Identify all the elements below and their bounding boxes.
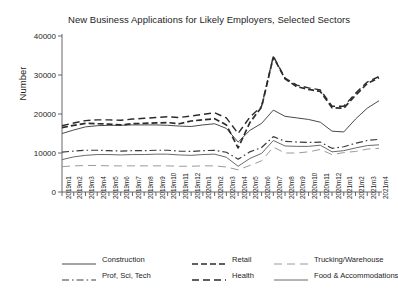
chart-legend: ConstructionRetailTrucking/Warehouse Pro… xyxy=(62,252,384,286)
y-tick-label: 40000 xyxy=(34,32,56,41)
x-tick-label: 2019m4 xyxy=(100,176,107,199)
y-tick-label: 10000 xyxy=(34,149,56,158)
x-tick-label: 2019m3 xyxy=(88,176,95,199)
legend-key-icon xyxy=(274,255,308,265)
x-tick-label: 2021m3 xyxy=(370,176,377,199)
x-tick-label: 2019m1 xyxy=(65,176,72,199)
x-tick-label: 2020m2 xyxy=(217,176,224,199)
x-tick-label: 2021m1 xyxy=(346,176,353,199)
legend-item[interactable]: Prof, Sci, Tech xyxy=(62,268,151,283)
x-tick-label: 2020m3 xyxy=(229,176,236,199)
legend-row-1: ConstructionRetailTrucking/Warehouse xyxy=(62,252,384,267)
legend-label: Construction xyxy=(102,255,145,264)
x-tick-label: 2020m6 xyxy=(264,176,271,199)
legend-item[interactable]: Retail xyxy=(192,252,251,267)
y-tick-label: 0 xyxy=(52,188,56,197)
legend-label: Food & Accommodations xyxy=(314,271,398,280)
x-tick-label: 2019m2 xyxy=(76,176,83,199)
x-tick-label: 2019m6 xyxy=(123,176,130,199)
x-tick-label: 2019m5 xyxy=(112,176,119,199)
legend-key-icon xyxy=(192,255,226,265)
series-line xyxy=(62,56,379,133)
series-line xyxy=(62,141,379,167)
legend-key-icon xyxy=(192,271,226,281)
legend-item[interactable]: Health xyxy=(192,268,254,283)
x-tick-label: 2020m10 xyxy=(311,173,318,199)
legend-label: Trucking/Warehouse xyxy=(314,255,384,264)
legend-label: Health xyxy=(232,271,254,280)
x-tick-label: 2020m5 xyxy=(252,176,259,199)
y-tick-label: 20000 xyxy=(34,110,56,119)
legend-item[interactable]: Construction xyxy=(62,252,145,267)
legend-key-icon xyxy=(62,271,96,281)
legend-item[interactable]: Trucking/Warehouse xyxy=(274,252,384,267)
x-tick-label: 2020m11 xyxy=(323,173,330,199)
x-tick-label: 2019m12 xyxy=(194,173,201,199)
y-tick-label: 30000 xyxy=(34,71,56,80)
x-tick-label: 2019m9 xyxy=(159,176,166,199)
x-tick-label: 2021m2 xyxy=(358,176,365,199)
x-tick-label: 2020m12 xyxy=(335,173,342,199)
x-tick-label: 2019m8 xyxy=(147,176,154,199)
x-tick-label: 2020m9 xyxy=(299,176,306,199)
x-tick-label: 2019m11 xyxy=(182,173,189,199)
x-tick-label: 2021m4 xyxy=(382,176,389,199)
series-lines xyxy=(62,56,379,169)
x-tick-label: 2019m7 xyxy=(135,176,142,199)
legend-label: Prof, Sci, Tech xyxy=(102,271,151,280)
x-tick-label: 2020m7 xyxy=(276,176,283,199)
x-tick-label: 2020m1 xyxy=(205,176,212,199)
x-tick-label: 2020m4 xyxy=(241,176,248,199)
legend-label: Retail xyxy=(232,255,251,264)
series-line xyxy=(62,57,379,148)
x-tick-label: 2019m10 xyxy=(170,173,177,199)
legend-key-icon xyxy=(62,255,96,265)
legend-row-2: Prof, Sci, TechHealthFood & Accommodatio… xyxy=(62,268,384,283)
x-tick-label: 2020m8 xyxy=(288,176,295,199)
legend-key-icon xyxy=(274,271,308,281)
legend-item[interactable]: Food & Accommodations xyxy=(274,268,398,283)
